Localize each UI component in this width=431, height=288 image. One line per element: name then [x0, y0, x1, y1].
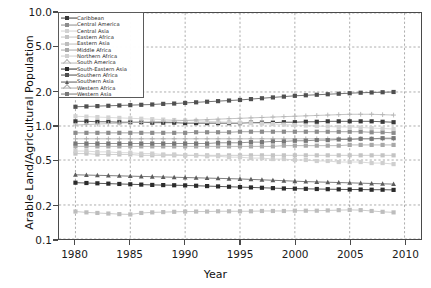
legend-marker-icon	[61, 47, 77, 53]
legend-label: Western Asia	[77, 91, 111, 97]
y-tick-label: 0.1	[12, 234, 52, 246]
y-tick-label: 2.0	[12, 86, 52, 98]
y-tick-label: 0.5	[12, 154, 52, 166]
x-tick-mark	[405, 240, 406, 245]
x-tick-mark	[239, 240, 240, 245]
x-tick-mark	[295, 240, 296, 245]
data-series	[73, 136, 395, 145]
x-tick-mark	[129, 240, 130, 245]
legend-marker-icon	[61, 28, 77, 34]
x-tick-label: 2005	[337, 248, 364, 260]
y-tick-label: 10.0	[12, 6, 52, 18]
x-tick-label: 1995	[227, 248, 254, 260]
legend-marker-icon	[61, 41, 77, 47]
legend-marker-icon	[61, 91, 77, 97]
data-series	[73, 130, 395, 135]
y-tick-label: 5.0	[12, 40, 52, 52]
x-tick-mark	[184, 240, 185, 245]
legend-marker-icon	[61, 66, 77, 72]
legend-marker-icon	[61, 22, 77, 28]
data-series	[73, 149, 395, 166]
y-tick-label: 1.0	[12, 120, 52, 132]
legend-item[interactable]: Western Asia	[61, 91, 141, 97]
legend[interactable]: CaribbeanCentral AmericaCentral AsiaEast…	[58, 12, 144, 98]
legend-marker-icon	[61, 79, 77, 85]
x-tick-label: 1980	[61, 248, 88, 260]
x-tick-mark	[74, 240, 75, 245]
data-series	[73, 112, 396, 128]
y-tick-label: 0.2	[12, 200, 52, 212]
x-tick-mark	[350, 240, 351, 245]
legend-marker-icon	[61, 53, 77, 59]
figure: Arable Land/Agricultural Population Year…	[0, 0, 431, 288]
x-tick-label: 2000	[282, 248, 309, 260]
legend-marker-icon	[61, 34, 77, 40]
x-tick-label: 2010	[392, 248, 419, 260]
data-series	[73, 136, 396, 141]
legend-marker-icon	[61, 72, 77, 78]
data-series	[73, 114, 395, 131]
legend-marker-icon	[61, 85, 77, 91]
legend-marker-icon	[61, 15, 77, 21]
data-series	[73, 181, 395, 192]
legend-marker-icon	[61, 60, 77, 66]
x-tick-label: 1990	[171, 248, 198, 260]
x-tick-label: 1985	[116, 248, 143, 260]
data-series	[73, 208, 395, 217]
